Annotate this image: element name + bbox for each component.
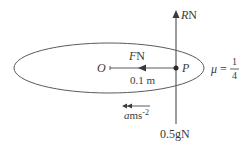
mu-denominator: 4 xyxy=(232,70,237,81)
friction-label-unit: N xyxy=(136,49,145,63)
mu-symbol: μ xyxy=(210,62,217,76)
weight-label: 0.5gN xyxy=(160,127,190,141)
mu-equals: = xyxy=(220,62,227,76)
friction-arrow-icon xyxy=(138,65,146,72)
particle-label: P xyxy=(181,61,190,75)
centre-label: O xyxy=(97,61,106,75)
force-diagram: RN FN O P 0.1 m μ = 1 4 ams-2 0.5gN xyxy=(0,0,244,149)
accel-label-unit: ms xyxy=(130,109,143,121)
svg-text:RN: RN xyxy=(180,8,197,22)
acceleration-double-arrow-icon xyxy=(122,104,132,109)
reaction-arrow-icon xyxy=(173,10,180,18)
accel-label-exp: -2 xyxy=(142,108,149,117)
svg-text:FN: FN xyxy=(128,49,145,63)
particle-point xyxy=(174,66,179,71)
svg-text:ams-2: ams-2 xyxy=(124,108,149,121)
radius-label: 0.1 m xyxy=(130,74,156,86)
reaction-label-unit: N xyxy=(188,8,197,22)
mu-numerator: 1 xyxy=(232,56,237,67)
